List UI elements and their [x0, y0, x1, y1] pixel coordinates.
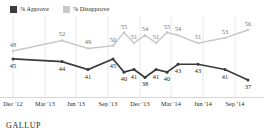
data-point	[12, 57, 15, 60]
x-tick-label: Sep '13	[99, 101, 118, 107]
value-label: 43	[195, 68, 201, 74]
data-point	[112, 57, 115, 60]
data-point	[123, 31, 125, 33]
legend-item-approve: % Approve	[10, 6, 49, 13]
legend-label-disapprove: % Disapprove	[73, 6, 109, 12]
value-label: 41	[222, 74, 228, 80]
value-label: 37	[245, 84, 251, 90]
value-label: 52	[59, 31, 65, 37]
data-point	[61, 60, 64, 63]
x-tick-label: Jun '13	[67, 101, 85, 107]
data-point	[144, 34, 146, 36]
legend-label-approve: % Approve	[20, 6, 49, 12]
data-point	[247, 29, 249, 31]
legend-square-icon	[63, 6, 70, 13]
value-label: 40	[121, 76, 127, 82]
x-tick-label: Dec '12	[3, 101, 23, 107]
legend-item-disapprove: % Disapprove	[63, 6, 109, 13]
value-label: 40	[164, 76, 170, 82]
data-point	[224, 68, 227, 71]
value-label: 41	[85, 74, 91, 80]
data-point	[12, 50, 14, 52]
value-label: 38	[142, 81, 148, 87]
value-label: 51	[195, 34, 201, 40]
chart-legend: % Approve % Disapprove	[10, 2, 109, 16]
value-label: 45	[110, 63, 116, 69]
value-label: 48	[10, 42, 16, 48]
value-label: 53	[222, 29, 228, 35]
data-point	[133, 42, 135, 44]
value-label: 56	[245, 21, 251, 27]
value-label: 51	[131, 34, 137, 40]
data-point	[177, 63, 180, 66]
gallup-brand: GALLUP	[6, 121, 41, 130]
x-tick-label: Mar '13	[35, 101, 55, 107]
data-point	[197, 42, 199, 44]
data-point	[61, 39, 63, 41]
data-point	[144, 76, 147, 79]
data-point	[155, 68, 158, 71]
data-point	[166, 31, 168, 33]
data-point	[87, 68, 90, 71]
gallup-approval-chart: % Approve % Disapprove 48524950555154515…	[0, 0, 264, 138]
value-label: 55	[121, 24, 127, 30]
value-label: 43	[175, 68, 181, 74]
data-point	[87, 47, 89, 49]
plot-area: 4852495055515451555451535645444145404138…	[0, 16, 264, 98]
x-tick-label: Jun '14	[194, 101, 212, 107]
legend-square-icon	[10, 6, 17, 13]
data-point	[247, 79, 250, 82]
value-label: 44	[59, 66, 65, 72]
value-label: 45	[10, 63, 16, 69]
data-point	[133, 68, 136, 71]
data-point	[177, 34, 179, 36]
value-label: 54	[142, 26, 148, 32]
data-point	[224, 37, 226, 39]
value-label: 50	[110, 37, 116, 43]
x-tick-label: Mar '14	[161, 101, 181, 107]
data-point	[123, 71, 126, 74]
data-point	[197, 63, 200, 66]
value-label: 49	[85, 39, 91, 45]
value-label: 55	[164, 24, 170, 30]
data-point	[112, 45, 114, 47]
value-label: 54	[175, 26, 181, 32]
value-label: 41	[131, 74, 137, 80]
x-tick-label: Sep '14	[226, 101, 245, 107]
x-tick-label: Dec '13	[130, 101, 150, 107]
value-label: 41	[153, 74, 159, 80]
data-point	[155, 42, 157, 44]
x-axis: Dec '12Mar '13Jun '13Sep '13Dec '13Mar '…	[0, 99, 264, 111]
data-point	[166, 71, 169, 74]
value-label: 51	[153, 34, 159, 40]
